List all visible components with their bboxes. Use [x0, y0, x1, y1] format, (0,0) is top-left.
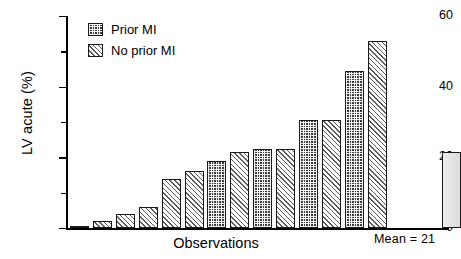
legend-label-no-prior-mi: No prior MI: [111, 44, 175, 57]
legend-item-prior-mi: Prior MI: [88, 20, 175, 38]
bar-5: [162, 179, 181, 228]
legend-swatch-no-prior-mi-icon: [88, 44, 103, 57]
bar-4: [139, 207, 158, 228]
y-tick-20: [59, 157, 67, 158]
bar-14: [368, 41, 387, 228]
bar-6: [185, 171, 204, 228]
bar-11: [299, 120, 318, 228]
bar-mean: [442, 152, 461, 228]
bar-3: [116, 214, 135, 228]
y-tick-0: [59, 228, 67, 229]
legend-swatch-prior-mi-icon: [88, 23, 103, 36]
bar-13: [345, 71, 364, 228]
bar-9: [253, 149, 272, 229]
x-axis-line: [66, 228, 449, 230]
legend-item-no-prior-mi: No prior MI: [88, 41, 175, 59]
bar-10: [276, 149, 295, 229]
legend: Prior MI No prior MI: [88, 20, 175, 62]
legend-label-prior-mi: Prior MI: [111, 23, 157, 36]
mean-annotation: Mean = 21: [374, 232, 435, 246]
y-tick-40: [59, 87, 67, 88]
bar-2: [93, 221, 112, 228]
bar-8: [230, 152, 249, 228]
y-tick-60: [59, 16, 67, 17]
bar-7: [207, 161, 226, 228]
x-axis-title: Observations: [66, 235, 366, 251]
y-axis-title: LV acute (%): [19, 48, 35, 178]
bar-12: [322, 120, 341, 228]
bar-1: [70, 226, 89, 228]
